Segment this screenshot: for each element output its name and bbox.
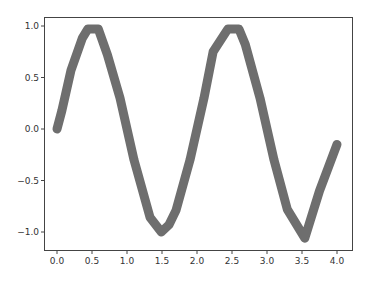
y-tick-label: −1.0 [17,227,39,237]
y-tick-label: 0.5 [25,73,39,83]
y-tick-label: −0.5 [17,176,39,186]
x-tick-label: 0.5 [85,256,99,266]
y-axis: 1.00.50.0−0.5−1.0 [17,21,44,237]
y-tick-label: 0.0 [25,124,40,134]
x-tick-label: 3.0 [260,256,275,266]
sine-series-line [57,29,337,238]
x-axis: 0.00.51.01.52.02.53.03.54.0 [50,251,345,267]
x-tick-label: 1.0 [120,256,135,266]
x-tick-label: 3.5 [295,256,309,266]
x-tick-label: 1.5 [155,256,169,266]
y-tick-label: 1.0 [25,21,40,31]
plot-area [57,29,337,238]
x-tick-label: 0.0 [50,256,65,266]
x-tick-label: 4.0 [330,256,345,266]
line-chart: 0.00.51.01.52.02.53.03.54.0 1.00.50.0−0.… [0,0,371,286]
x-tick-label: 2.5 [225,256,239,266]
x-tick-label: 2.0 [190,256,205,266]
